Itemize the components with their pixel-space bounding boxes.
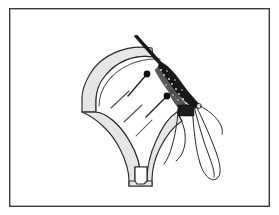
speck [163, 74, 165, 76]
speck [172, 94, 174, 96]
speck [166, 70, 168, 72]
speck [175, 88, 177, 90]
speck [178, 93, 180, 95]
pin-marker-1-head [144, 71, 151, 78]
speck [171, 83, 173, 85]
speck [181, 89, 183, 91]
stem-notch [135, 167, 147, 184]
pin-marker-2-head [164, 93, 171, 100]
speck [174, 79, 176, 81]
illustration-canvas [0, 0, 279, 215]
speck [185, 102, 187, 104]
wedge-base-block [178, 105, 194, 116]
speck [168, 78, 170, 80]
speck [177, 99, 179, 101]
speck [182, 98, 184, 100]
speck [160, 69, 162, 71]
figure-root [0, 0, 279, 215]
speck [165, 84, 167, 86]
